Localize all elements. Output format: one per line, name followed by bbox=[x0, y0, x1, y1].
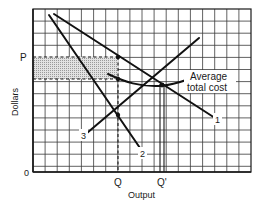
line-3-label: 3 bbox=[81, 131, 86, 141]
line-2-label: 2 bbox=[140, 149, 145, 159]
atc-label-line2: total cost bbox=[187, 82, 227, 93]
line-1-label: 1 bbox=[215, 115, 220, 125]
atc-label-line1: Average bbox=[190, 71, 228, 82]
profit-area bbox=[33, 57, 118, 79]
economics-chart: Average total cost 1 2 3 P 0 Q Q' Output… bbox=[0, 0, 256, 209]
q-label: Q bbox=[114, 177, 122, 188]
q-prime-lines bbox=[160, 84, 164, 172]
y-axis-label: Dollars bbox=[10, 87, 20, 116]
x-axis-label: Output bbox=[128, 190, 156, 200]
origin-label: 0 bbox=[24, 168, 29, 178]
price-label: P bbox=[20, 52, 27, 63]
q-prime-label: Q' bbox=[157, 177, 167, 188]
